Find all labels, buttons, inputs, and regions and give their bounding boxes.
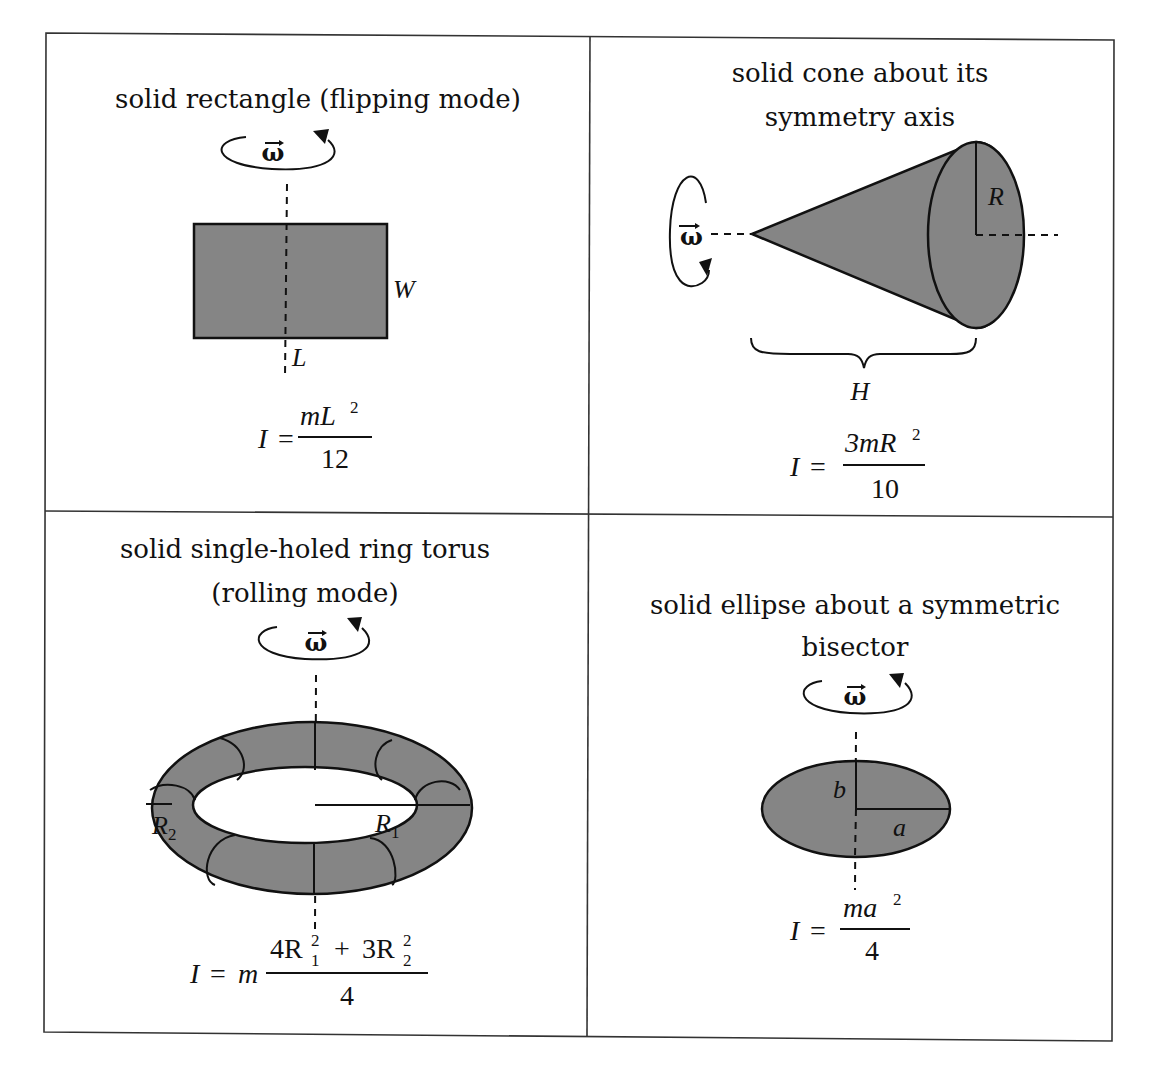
svg-text:=: =: [210, 958, 226, 989]
rotation-indicator: ω: [259, 617, 369, 659]
rotation-indicator: ω: [670, 177, 712, 287]
svg-text:=: =: [810, 451, 826, 482]
formula-denominator: 10: [871, 473, 899, 504]
semi-minor-label: b: [833, 775, 846, 804]
horizontal-divider: [45, 511, 1113, 517]
cell-cone: solid cone about its symmetry axis ω R H…: [670, 58, 1058, 504]
svg-text:=: =: [278, 423, 294, 454]
svg-text:m: m: [238, 958, 258, 989]
ellipse-formula: I = ma 2 4: [789, 890, 910, 966]
formula-numerator: ma: [843, 892, 877, 923]
rectangle-title: solid rectangle (flipping mode): [115, 84, 521, 114]
cell-torus: solid single-holed ring torus (rolling m…: [120, 534, 490, 1011]
rotation-indicator: ω: [222, 129, 335, 169]
torus-title-line-2: (rolling mode): [211, 578, 398, 608]
formula-numerator: 4R: [270, 933, 303, 964]
cell-rectangle: solid rectangle (flipping mode) ω W L I …: [115, 84, 521, 474]
ellipse-title-line-2: bisector: [802, 632, 909, 662]
rectangle-shape: [194, 224, 387, 338]
formula-lhs: I: [257, 423, 269, 454]
svg-text:=: =: [810, 915, 826, 946]
radius-label: R: [987, 182, 1004, 211]
arrowhead-icon: [313, 129, 329, 144]
svg-text:2: 2: [912, 425, 921, 444]
svg-text:2: 2: [893, 890, 902, 909]
formula-denominator: 4: [340, 980, 354, 1011]
formula-numerator: mL: [300, 400, 336, 431]
rectangle-formula: I = mL 2 12: [257, 398, 372, 474]
arrowhead-icon: [347, 617, 362, 632]
length-label: L: [291, 343, 306, 372]
height-brace: [751, 338, 976, 368]
ellipse-title-line-1: solid ellipse about a symmetric: [650, 590, 1060, 620]
svg-text:3R: 3R: [362, 933, 395, 964]
formula-denominator: 4: [865, 935, 879, 966]
svg-text:2: 2: [403, 951, 412, 970]
svg-text:2: 2: [403, 931, 412, 950]
semi-major-label: a: [893, 813, 906, 842]
width-label: W: [393, 275, 417, 304]
rotation-indicator: ω: [804, 673, 912, 713]
torus-formula: I = m 4R 2 1 + 3R 2 2 4: [189, 931, 428, 1011]
formula-lhs: I: [789, 915, 801, 946]
rotation-axis: [285, 184, 287, 378]
cell-ellipse: solid ellipse about a symmetric bisector…: [650, 590, 1060, 966]
arrowhead-icon: [889, 673, 904, 688]
height-label: H: [850, 377, 871, 406]
torus-title-line-1: solid single-holed ring torus: [120, 534, 490, 564]
formula-lhs: I: [189, 958, 201, 989]
cone-formula: I = 3mR 2 10: [789, 425, 925, 504]
formula-denominator: 12: [321, 443, 349, 474]
arrowhead-icon: [699, 258, 712, 276]
vertical-divider: [587, 36, 590, 1036]
formula-numerator: 3mR: [844, 427, 896, 458]
formula-lhs: I: [789, 451, 801, 482]
inertia-diagram: solid rectangle (flipping mode) ω W L I …: [0, 0, 1159, 1077]
svg-text:2: 2: [311, 931, 320, 950]
svg-text:+: +: [334, 933, 350, 964]
cone-title-line-2: symmetry axis: [765, 102, 955, 132]
cone-title-line-1: solid cone about its: [732, 58, 989, 88]
svg-text:1: 1: [311, 951, 320, 970]
svg-text:2: 2: [350, 398, 359, 417]
